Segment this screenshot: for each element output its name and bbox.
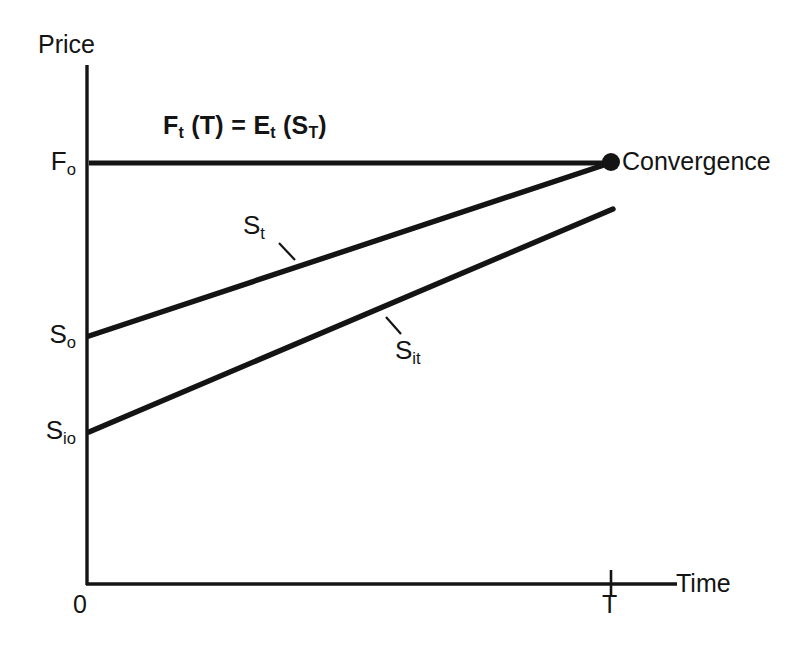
- series-label-st: St: [243, 212, 265, 238]
- y-axis-label-f0-subscript: o: [67, 160, 76, 179]
- y-axis-label-f0-base: F: [51, 146, 67, 176]
- y-axis-label-sio: Sio: [8, 417, 76, 443]
- y-axis-label-s0: So: [14, 321, 76, 347]
- y-axis-label-s0-base: S: [49, 319, 66, 349]
- y-axis-title: Price: [38, 32, 95, 57]
- formula-f-base: F: [163, 111, 179, 139]
- series-label-st-subscript: t: [260, 224, 265, 243]
- y-axis-label-f0: Fo: [14, 148, 76, 174]
- x-axis-title: Time: [676, 571, 731, 596]
- series-label-sit-base: S: [395, 335, 412, 365]
- formula-arg2-close: ): [318, 111, 327, 139]
- formula-arg1: (T) =: [184, 111, 253, 139]
- convergence-annotation: Convergence: [622, 149, 771, 174]
- y-axis-label-sio-base: S: [46, 415, 63, 445]
- y-axis-label-sio-subscript: io: [63, 429, 76, 448]
- price-convergence-figure: Price Time Fo So Sio 0 T Ft (T) = Et (ST…: [0, 0, 806, 649]
- formula-arg2-open: (S: [276, 111, 309, 139]
- x-axis-label-maturity: T: [602, 592, 617, 617]
- y-axis-label-s0-subscript: o: [67, 333, 76, 352]
- formula-arg2-subscript: T: [309, 124, 319, 141]
- series-label-sit-subscript: it: [412, 349, 420, 368]
- formula-annotation: Ft (T) = Et (ST): [163, 113, 327, 138]
- series-label-st-base: S: [243, 210, 260, 240]
- chart-canvas: [0, 0, 806, 649]
- x-axis-label-origin: 0: [73, 592, 87, 617]
- formula-e-base: E: [253, 111, 270, 139]
- series-label-sit: Sit: [395, 337, 421, 363]
- convergence-point-marker: [602, 153, 620, 171]
